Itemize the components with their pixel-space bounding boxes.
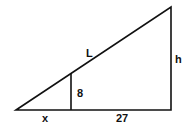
label-L: L	[86, 47, 93, 59]
triangle-diagram: L h 8 x 27	[0, 0, 191, 129]
outer-triangle	[16, 7, 171, 110]
label-27: 27	[116, 112, 128, 124]
label-8: 8	[77, 87, 83, 99]
label-x: x	[42, 112, 49, 124]
label-h: h	[175, 53, 182, 65]
